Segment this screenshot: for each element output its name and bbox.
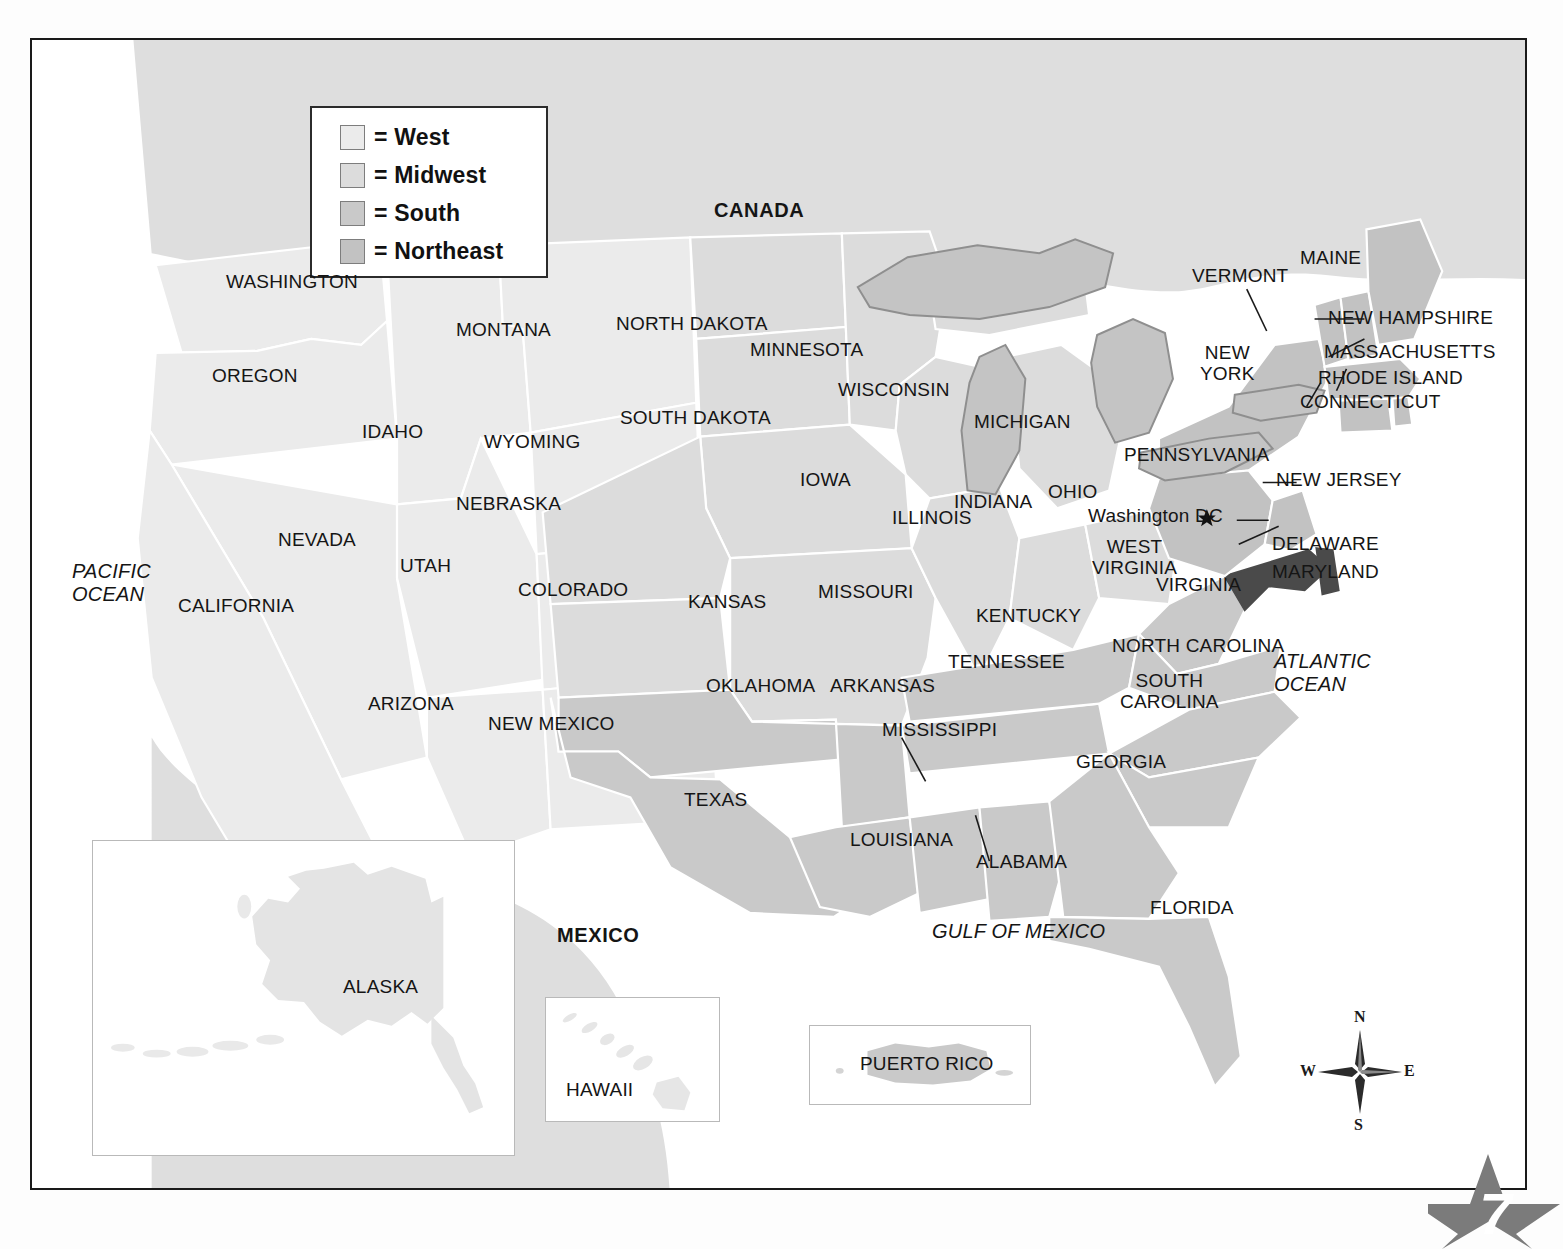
new-york-line2: YORK: [1200, 363, 1255, 384]
label-maryland: MARYLAND: [1272, 562, 1379, 582]
legend-label-south: = South: [374, 200, 460, 227]
label-connecticut: CONNECTICUT: [1300, 392, 1440, 412]
label-montana: MONTANA: [456, 320, 551, 340]
alaska-panhandle: [431, 1016, 483, 1113]
label-washington-dc: Washington DC: [1088, 506, 1223, 526]
label-south-carolina: SOUTH CAROLINA: [1120, 670, 1219, 713]
compass-south: S: [1354, 1116, 1363, 1134]
compass-east: E: [1404, 1062, 1415, 1080]
label-iowa: IOWA: [800, 470, 851, 490]
label-delaware: DELAWARE: [1272, 534, 1379, 554]
label-mexico: MEXICO: [557, 925, 640, 946]
west-virginia-line1: WEST: [1092, 536, 1177, 557]
label-indiana: INDIANA: [954, 492, 1032, 512]
label-maine: MAINE: [1300, 248, 1361, 268]
south-carolina-line1: SOUTH: [1120, 670, 1219, 691]
label-mississippi: MISSISSIPPI: [882, 720, 997, 740]
state-iowa: [700, 425, 911, 559]
map-frame: = West = Midwest = South = Northeast CAN…: [30, 38, 1527, 1190]
label-rhode-island: RHODE ISLAND: [1318, 368, 1463, 388]
legend-label-west: = West: [374, 124, 450, 151]
state-kansas: [551, 598, 731, 698]
label-atlantic-ocean: ATLANTIC OCEAN: [1274, 650, 1371, 696]
label-arizona: ARIZONA: [368, 694, 454, 714]
label-pennsylvania: PENNSYLVANIA: [1124, 445, 1269, 465]
label-canada: CANADA: [714, 200, 804, 221]
label-louisiana: LOUISIANA: [850, 830, 953, 850]
legend-row-south: = South: [340, 194, 546, 232]
label-texas: TEXAS: [684, 790, 747, 810]
mona-island: [836, 1068, 844, 1074]
label-colorado: COLORADO: [518, 580, 628, 600]
inset-hawaii: HAWAII: [545, 997, 720, 1122]
new-york-line1: NEW: [1200, 342, 1255, 363]
state-indiana: [1009, 524, 1099, 650]
label-kentucky: KENTUCKY: [976, 606, 1081, 626]
compass-west: W: [1300, 1062, 1316, 1080]
pacific-line1: PACIFIC: [72, 560, 151, 583]
label-virginia: VIRGINIA: [1156, 575, 1241, 595]
vieques-island: [995, 1070, 1013, 1076]
label-north-carolina: NORTH CAROLINA: [1112, 636, 1284, 656]
label-west-virginia: WEST VIRGINIA: [1092, 536, 1177, 579]
page-number-star: 7: [1428, 1148, 1563, 1249]
atlantic-line1: ATLANTIC: [1274, 650, 1371, 673]
leader-vermont: [1247, 289, 1267, 331]
legend-row-northeast: = Northeast: [340, 232, 546, 270]
label-gulf-of-mexico: GULF OF MEXICO: [932, 920, 1105, 943]
south-carolina-line2: CAROLINA: [1120, 691, 1219, 712]
label-wisconsin: WISCONSIN: [838, 380, 950, 400]
label-south-dakota: SOUTH DAKOTA: [620, 408, 771, 428]
label-north-dakota: NORTH DAKOTA: [616, 314, 768, 334]
inset-alaska: ALASKA: [92, 840, 515, 1156]
label-new-york: NEW YORK: [1200, 342, 1255, 385]
label-massachusetts: MASSACHUSETTS: [1324, 342, 1496, 362]
label-alaska: ALASKA: [343, 977, 418, 997]
label-puerto-rico: PUERTO RICO: [860, 1054, 993, 1074]
legend-swatch-northeast: [340, 239, 365, 264]
star-icon: [1428, 1148, 1563, 1249]
clipped-title-strip: [0, 0, 1563, 16]
label-washington: WASHINGTON: [226, 272, 358, 292]
label-new-jersey: NEW JERSEY: [1276, 470, 1402, 490]
map-page: = West = Midwest = South = Northeast CAN…: [0, 0, 1563, 1249]
label-new-mexico: NEW MEXICO: [488, 714, 615, 734]
compass-north: N: [1354, 1008, 1366, 1026]
alaska-geography: [93, 841, 514, 1155]
label-alabama: ALABAMA: [976, 852, 1067, 872]
pacific-line2: OCEAN: [72, 583, 151, 606]
label-missouri: MISSOURI: [818, 582, 914, 602]
label-wyoming: WYOMING: [484, 432, 580, 452]
label-michigan: MICHIGAN: [974, 412, 1071, 432]
legend-row-midwest: = Midwest: [340, 156, 546, 194]
label-california: CALIFORNIA: [178, 596, 294, 616]
region-legend: = West = Midwest = South = Northeast: [310, 106, 548, 278]
atlantic-line2: OCEAN: [1274, 673, 1371, 696]
legend-label-midwest: = Midwest: [374, 162, 486, 189]
legend-row-west: = West: [340, 118, 546, 156]
legend-swatch-south: [340, 201, 365, 226]
label-tennessee: TENNESSEE: [948, 652, 1065, 672]
label-oregon: OREGON: [212, 366, 298, 386]
legend-swatch-west: [340, 125, 365, 150]
label-minnesota: MINNESOTA: [750, 340, 863, 360]
label-hawaii: HAWAII: [566, 1080, 633, 1100]
inset-puerto-rico: PUERTO RICO: [809, 1025, 1031, 1105]
label-new-hampshire: NEW HAMPSHIRE: [1328, 308, 1493, 328]
label-oklahoma: OKLAHOMA: [706, 676, 815, 696]
label-ohio: OHIO: [1048, 482, 1097, 502]
compass-rose: N S E W: [1300, 1012, 1420, 1132]
label-pacific-ocean: PACIFIC OCEAN: [72, 560, 151, 606]
label-florida: FLORIDA: [1150, 898, 1234, 918]
label-idaho: IDAHO: [362, 422, 423, 442]
state-kentucky: [902, 634, 1139, 722]
alaska-shape: [252, 863, 443, 1036]
label-utah: UTAH: [400, 556, 451, 576]
legend-label-northeast: = Northeast: [374, 238, 503, 265]
label-nebraska: NEBRASKA: [456, 494, 561, 514]
legend-swatch-midwest: [340, 163, 365, 188]
label-georgia: GEORGIA: [1076, 752, 1166, 772]
label-nevada: NEVADA: [278, 530, 356, 550]
hawaii-geography: [546, 998, 719, 1121]
label-arkansas: ARKANSAS: [830, 676, 935, 696]
